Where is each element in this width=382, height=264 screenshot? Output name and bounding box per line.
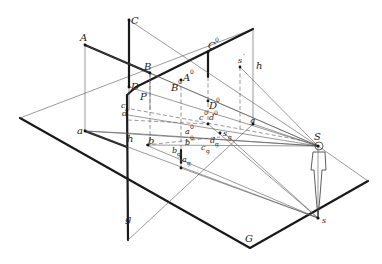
svg-text:0: 0 xyxy=(190,123,194,130)
svg-text:g: g xyxy=(206,147,210,155)
label-h-left: h xyxy=(127,133,133,144)
label-d: d xyxy=(122,109,127,118)
svg-text:g: g xyxy=(177,150,181,158)
rays-to-eye xyxy=(85,20,318,146)
label-S: S xyxy=(314,131,321,142)
label-D: D xyxy=(130,81,139,92)
label-g-bottom: g xyxy=(125,213,131,224)
svg-text:0: 0 xyxy=(190,134,194,141)
perspective-diagram: A B C D P c d a h b g A 0 B 0 C 0 D 0 s … xyxy=(0,0,382,264)
label-a: a xyxy=(77,125,83,136)
svg-text:g: g xyxy=(215,140,219,148)
svg-text:0: 0 xyxy=(204,109,208,116)
label-G: G xyxy=(245,233,253,244)
label-A: A xyxy=(79,32,87,43)
svg-text:0: 0 xyxy=(178,78,182,85)
label-B: B xyxy=(143,61,151,72)
label-A0: A xyxy=(182,72,190,83)
label-s-prime: s xyxy=(238,56,242,65)
object-lines xyxy=(85,20,150,147)
svg-text:': ' xyxy=(243,52,245,59)
label-C: C xyxy=(131,15,139,26)
label-h-right: h xyxy=(256,60,262,71)
svg-text:0: 0 xyxy=(214,109,218,116)
svg-text:g: g xyxy=(228,133,232,141)
label-s: s xyxy=(322,216,326,225)
labels: A B C D P c d a h b g A 0 B 0 C 0 D 0 s … xyxy=(77,15,326,244)
label-g-right: g xyxy=(250,116,255,125)
svg-text:0: 0 xyxy=(215,36,219,43)
label-b: b xyxy=(148,135,154,146)
svg-text:0: 0 xyxy=(216,96,220,103)
svg-text:0: 0 xyxy=(190,68,194,75)
label-P: P xyxy=(139,91,147,102)
label-s-g: s xyxy=(223,129,227,138)
svg-text:g: g xyxy=(187,159,191,167)
